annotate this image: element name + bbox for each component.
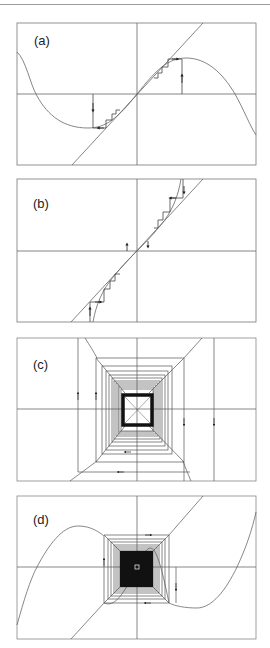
panel-b-label: (b) xyxy=(33,196,49,211)
panel-c-frame xyxy=(17,338,256,481)
figure-canvas xyxy=(0,0,270,648)
panel-d-diagonal-low xyxy=(71,603,104,639)
panel-a-cobweb-left xyxy=(93,94,120,128)
panel-a xyxy=(17,23,256,165)
panel-d-diagonal-high xyxy=(169,496,203,535)
panel-b xyxy=(17,179,256,322)
panel-d xyxy=(17,496,256,639)
panel-c xyxy=(17,338,256,481)
panel-a-label: (a) xyxy=(34,33,50,48)
panel-c-label: (c) xyxy=(33,357,48,372)
panel-c-nested-squares xyxy=(96,358,184,462)
panel-a-curve xyxy=(17,52,256,135)
panel-b-cobweb-upper xyxy=(154,179,183,228)
panel-a-cobweb-right xyxy=(154,59,182,94)
panel-d-label: (d) xyxy=(33,512,49,527)
